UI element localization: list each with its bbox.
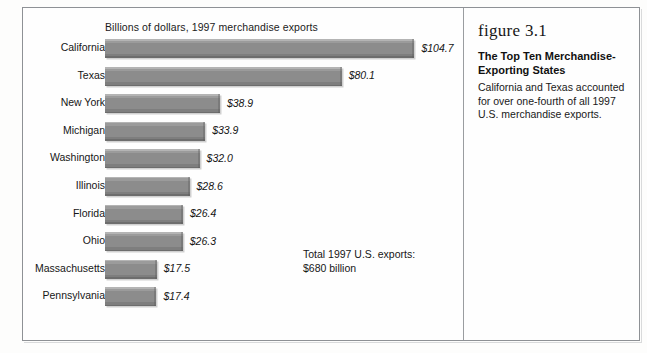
figure-title: The Top Ten Merchandise-Exporting States <box>478 50 634 77</box>
bar-category-label: Illinois <box>0 179 105 191</box>
bar-row: Florida$26.4 <box>23 204 463 232</box>
bar-fill <box>105 149 200 168</box>
figure-root: Billions of dollars, 1997 merchandise ex… <box>0 0 647 353</box>
bar-category-label: Washington <box>0 151 105 163</box>
bar <box>105 260 157 280</box>
bar-fill <box>105 94 220 113</box>
bar-row: California$104.7 <box>23 38 463 66</box>
bar <box>105 67 342 87</box>
bar-value-label: $28.6 <box>197 180 223 192</box>
bar-value-label: $32.0 <box>207 152 233 164</box>
total-exports-note: Total 1997 U.S. exports: $680 billion <box>303 247 415 275</box>
bar-chart-plot-area: California$104.7Texas$80.1New York$38.9M… <box>23 38 463 328</box>
bar-category-label: Pennsylvania <box>0 289 105 301</box>
bar <box>105 287 156 307</box>
chart-axis-title: Billions of dollars, 1997 merchandise ex… <box>105 21 318 33</box>
total-exports-line-1: Total 1997 U.S. exports: <box>303 247 415 261</box>
bar-category-label: California <box>0 41 105 53</box>
bar <box>105 94 220 114</box>
bar <box>105 39 414 59</box>
bar-category-label: Michigan <box>0 124 105 136</box>
bar-row: New York$38.9 <box>23 93 463 121</box>
bar-value-label: $38.9 <box>227 97 253 109</box>
figure-description: California and Texas accounted for over … <box>478 81 634 122</box>
bar-category-label: Florida <box>0 207 105 219</box>
bar-category-label: Massachusetts <box>0 262 105 274</box>
figure-number: figure 3.1 <box>478 21 547 41</box>
bar-fill <box>105 67 342 86</box>
bar <box>105 232 183 252</box>
bar-fill <box>105 122 205 141</box>
bar-fill <box>105 287 156 306</box>
bar <box>105 177 190 197</box>
bar-value-label: $26.3 <box>190 235 216 247</box>
bar-fill <box>105 39 414 58</box>
bar <box>105 149 200 169</box>
bar-value-label: $26.4 <box>190 207 216 219</box>
bar-value-label: $104.7 <box>421 42 453 54</box>
caption-panel: figure 3.1 The Top Ten Merchandise-Expor… <box>478 8 636 340</box>
bar-fill <box>105 232 183 251</box>
bar-row: Washington$32.0 <box>23 148 463 176</box>
panel-divider <box>463 8 464 340</box>
bar-category-label: Ohio <box>0 234 105 246</box>
bar <box>105 205 183 225</box>
chart-panel: Billions of dollars, 1997 merchandise ex… <box>23 8 463 340</box>
bar-row: Michigan$33.9 <box>23 121 463 149</box>
bar <box>105 122 205 142</box>
bar-row: Texas$80.1 <box>23 66 463 94</box>
total-exports-line-2: $680 billion <box>303 261 415 275</box>
bar-category-label: New York <box>0 96 105 108</box>
bar-value-label: $33.9 <box>212 124 238 136</box>
bar-value-label: $80.1 <box>349 69 375 81</box>
bar-row: Illinois$28.6 <box>23 176 463 204</box>
bar-row: Pennsylvania$17.4 <box>23 286 463 314</box>
bar-fill <box>105 177 190 196</box>
bar-value-label: $17.4 <box>163 290 189 302</box>
bar-value-label: $17.5 <box>164 262 190 274</box>
bar-fill <box>105 205 183 224</box>
bar-fill <box>105 260 157 279</box>
bar-category-label: Texas <box>0 69 105 81</box>
